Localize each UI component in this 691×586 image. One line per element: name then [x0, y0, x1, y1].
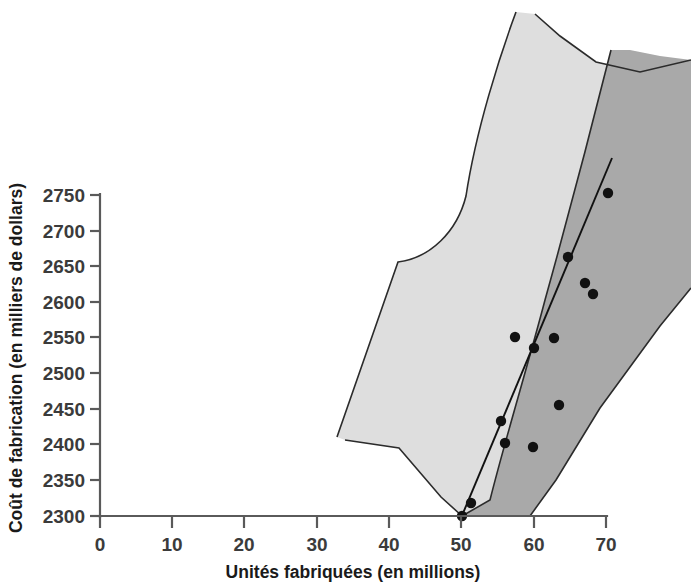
data-point [500, 438, 510, 448]
interval-bands-group [337, 12, 691, 518]
y-tick-label: 2400 [43, 434, 85, 455]
x-tick-label: 40 [378, 534, 399, 555]
x-tick-label: 30 [306, 534, 327, 555]
x-tick-label: 50 [450, 534, 471, 555]
chart-container: 2750 2700 2650 2600 2550 2500 2450 2400 … [0, 0, 691, 586]
data-point [549, 333, 559, 343]
x-axis: 0 10 20 30 40 50 60 70 Unités fabriquées… [95, 516, 617, 582]
y-axis-title: Coût de fabrication (en milliers de doll… [6, 183, 26, 533]
x-tick-label: 10 [161, 534, 182, 555]
y-tick-label: 2700 [43, 221, 85, 242]
y-tick-label: 2450 [43, 399, 85, 420]
data-point [466, 498, 476, 508]
x-tick-label: 60 [523, 534, 544, 555]
x-axis-title: Unités fabriquées (en millions) [226, 562, 481, 582]
y-tick-label: 2600 [43, 292, 85, 313]
y-tick-label: 2750 [43, 185, 85, 206]
x-tick-label: 70 [595, 534, 616, 555]
data-point [580, 278, 590, 288]
data-point [529, 343, 539, 353]
y-tick-label: 2350 [43, 470, 85, 491]
x-tick-label: 20 [233, 534, 254, 555]
y-tick-label: 2550 [43, 327, 85, 348]
scatter-plot: 2750 2700 2650 2600 2550 2500 2450 2400 … [0, 0, 691, 586]
data-point [603, 188, 613, 198]
y-tick-label: 2650 [43, 256, 85, 277]
data-point [510, 332, 520, 342]
y-axis: 2750 2700 2650 2600 2550 2500 2450 2400 … [6, 183, 100, 533]
x-tick-label: 0 [95, 534, 106, 555]
data-point [554, 400, 564, 410]
data-point [588, 289, 598, 299]
data-point [563, 252, 573, 262]
y-tick-label: 2300 [43, 506, 85, 527]
data-point [496, 416, 506, 426]
y-tick-label: 2500 [43, 363, 85, 384]
data-point [528, 442, 538, 452]
